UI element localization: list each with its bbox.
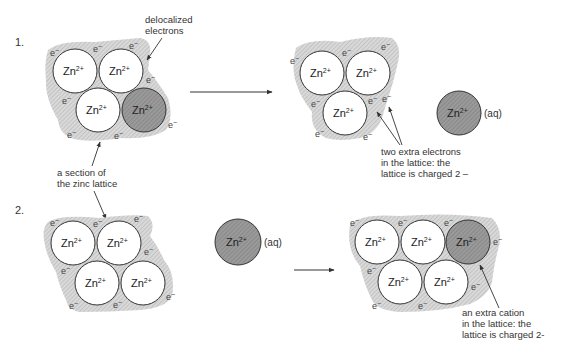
ion-zn: Zn2+	[401, 220, 445, 264]
ion-zn-extra: Zn2+	[122, 88, 166, 132]
ion-zn: Zn2+	[346, 51, 390, 95]
ion-zn: Zn2+	[300, 51, 344, 95]
svg-text:e−: e−	[315, 128, 324, 139]
state-aq: (aq)	[484, 108, 502, 119]
svg-text:e−: e−	[493, 236, 502, 247]
ion-zn: Zn2+	[355, 220, 399, 264]
label-extra-cation-2: in the lattice: the	[462, 318, 531, 329]
panel-1-number: 1.	[15, 36, 24, 48]
ion-zn: Zn2+	[99, 49, 143, 93]
ion-zn: Zn2+	[97, 221, 141, 265]
label-extra-cation-1: an extra cation	[462, 307, 524, 318]
label-section-1: a section of	[57, 167, 106, 178]
diagram-canvas: 1. Zn2+ Zn2+ Zn2+ Zn2+ e− e− e− e− e− e−…	[0, 0, 568, 356]
label-extra-cation-3: lattice is charged 2-	[462, 329, 544, 340]
ion-zn: Zn2+	[378, 260, 422, 304]
pointer-line	[92, 142, 100, 166]
panel-2-number: 2.	[15, 204, 24, 216]
ion-zn: Zn2+	[75, 261, 119, 305]
label-extra-electrons-2: in the lattice: the	[381, 157, 450, 168]
svg-text:e−: e−	[382, 93, 391, 104]
ion-zn: Zn2+	[424, 260, 468, 304]
label-electrons: electrons	[145, 25, 184, 36]
label-extra-electrons-1: two extra electrons	[381, 146, 461, 157]
state-aq: (aq)	[264, 237, 282, 248]
aqueous-ion-zn: Zn2+	[215, 219, 261, 265]
ion-zn: Zn2+	[53, 49, 97, 93]
svg-text:e−: e−	[363, 131, 372, 142]
ion-zn-extra: Zn2+	[446, 220, 490, 264]
svg-text:e−: e−	[114, 130, 123, 141]
aqueous-ion-zn: Zn2+	[437, 91, 481, 135]
ion-zn: Zn2+	[51, 221, 95, 265]
svg-text:e−: e−	[372, 300, 381, 311]
svg-text:e−: e−	[166, 291, 175, 302]
diagram-zinc-lattice: 1. Zn2+ Zn2+ Zn2+ Zn2+ e− e− e− e− e− e−…	[0, 0, 568, 356]
ion-zn: Zn2+	[323, 91, 367, 135]
pointer-line	[94, 191, 106, 219]
ion-zn: Zn2+	[76, 88, 120, 132]
svg-text:e−: e−	[168, 119, 177, 130]
ion-zn: Zn2+	[121, 261, 165, 305]
label-delocalized: delocalized	[145, 14, 193, 25]
label-section-2: the zinc lattice	[57, 178, 117, 189]
label-extra-electrons-3: lattice is charged 2 –	[381, 168, 469, 179]
